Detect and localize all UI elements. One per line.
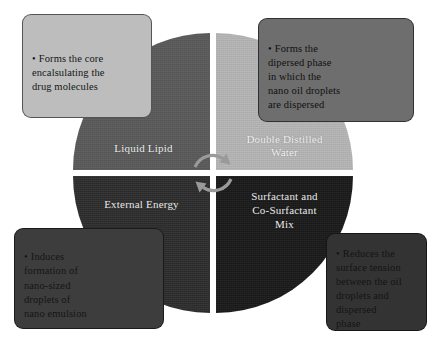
callout-body-double-distilled-water: Forms the dipersed phase in which the na… xyxy=(268,43,340,111)
callout-external-energy[interactable]: •Induces formation of nano-sized droplet… xyxy=(14,228,164,329)
callout-double-distilled-water[interactable]: •Forms the dipersed phase in which the n… xyxy=(258,18,414,122)
bullet-icon: • xyxy=(268,42,272,56)
quadrant-label-surfactant-mix: Surfactant and Co-Surfactant Mix xyxy=(245,176,324,231)
callout-text-wrapper: •Forms the core encalsulating the drug m… xyxy=(32,38,105,95)
bullet-icon: • xyxy=(32,52,36,66)
callout-body-external-energy: Induces formation of nano-sized droplets… xyxy=(24,251,87,319)
callout-text-wrapper: •Induces formation of nano-sized droplet… xyxy=(24,236,87,321)
callout-surfactant-mix[interactable]: •Reduces the surface tension between the… xyxy=(326,233,427,331)
callout-text-wrapper: •Reduces the surface tension between the… xyxy=(336,232,402,331)
callout-body-surfactant-mix: Reduces the surface tension between the … xyxy=(336,248,402,330)
bullet-icon: • xyxy=(24,250,28,264)
diagram-canvas: Liquid Lipid Double Distilled Water Exte… xyxy=(0,0,432,345)
quadrant-label-external-energy: External Energy xyxy=(98,176,185,212)
callout-text-wrapper: •Forms the dipersed phase in which the n… xyxy=(268,27,340,112)
quadrant-label-liquid-lipid: Liquid Lipid xyxy=(108,142,174,170)
callout-body-liquid-lipid: Forms the core encalsulating the drug mo… xyxy=(32,53,105,92)
quadrant-label-double-distilled-water: Double Distilled Water xyxy=(240,133,328,171)
callout-liquid-lipid[interactable]: •Forms the core encalsulating the drug m… xyxy=(22,14,152,118)
bullet-icon: • xyxy=(336,247,340,261)
